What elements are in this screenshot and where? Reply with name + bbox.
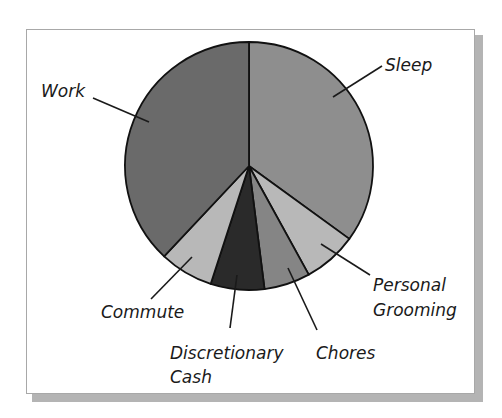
label-personal: Personal <box>373 275 446 295</box>
label-work: Work <box>41 81 86 101</box>
pie-chart: Work Sleep Personal Grooming Commute Dis… <box>0 0 502 418</box>
label-commute: Commute <box>101 302 184 322</box>
label-chores: Chores <box>316 343 375 363</box>
label-cash: Cash <box>170 367 212 387</box>
label-discretionary: Discretionary <box>170 343 284 363</box>
label-grooming: Grooming <box>373 300 457 320</box>
label-sleep: Sleep <box>385 55 432 75</box>
